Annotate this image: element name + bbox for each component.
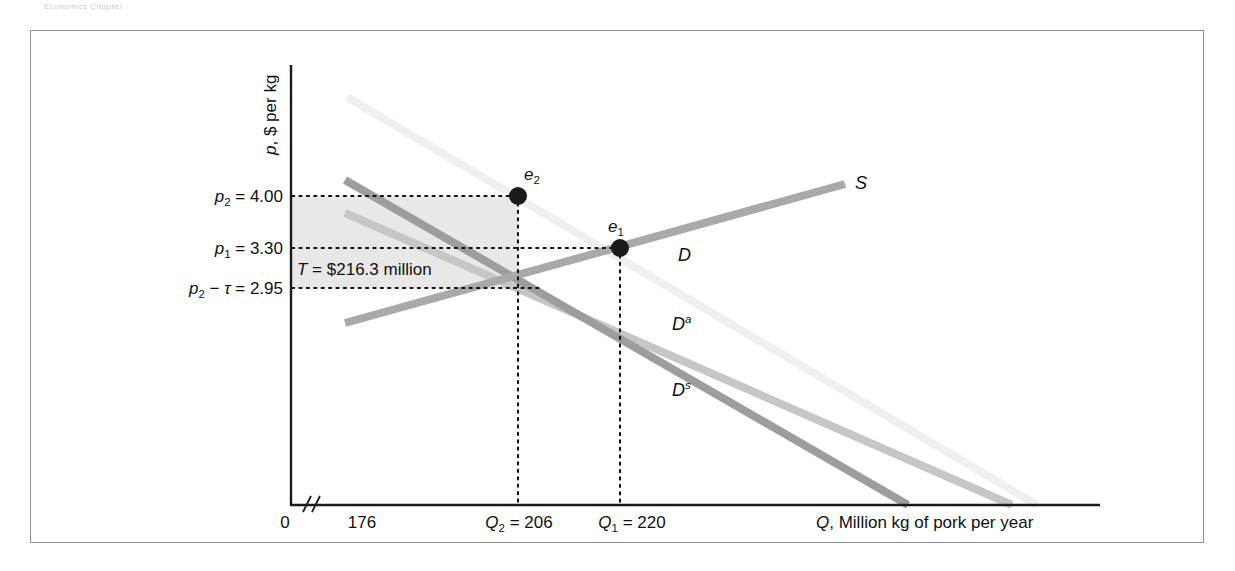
- x-tick-label-q2: Q2 = 206: [485, 513, 552, 534]
- tax-revenue-label: T = $216.3 million: [297, 260, 432, 279]
- curve-label-demand-a: Da: [672, 313, 691, 334]
- y-tick-label-p1: p1 = 3.30: [214, 239, 283, 260]
- curve-label-supply: S: [855, 173, 867, 193]
- point-e2: [509, 187, 527, 205]
- x-axis-title: Q, Million kg of pork per year: [816, 513, 1034, 532]
- y-tick-label-p2: p2 = 4.00: [214, 187, 283, 208]
- label-e1: e1: [608, 217, 624, 238]
- curve-demand-total: [347, 97, 1037, 505]
- label-e2: e2: [524, 165, 540, 186]
- curve-label-demand-total: D: [678, 245, 691, 265]
- point-e1: [611, 239, 629, 257]
- figure-root: Economics Chapter p, $ per kg: [0, 0, 1235, 571]
- x-tick-label-q1: Q1 = 220: [598, 513, 665, 534]
- curve-demand-s: [345, 180, 908, 505]
- curve-label-demand-s: Ds: [672, 379, 691, 400]
- x-tick-label-0: 0: [280, 513, 289, 532]
- y-tick-label-p2-minus-tau: p2 − τ = 2.95: [188, 279, 283, 300]
- y-axis-title: p, $ per kg: [261, 75, 280, 156]
- chart-canvas: p, $ per kg p2 = 4.00 p1 = 3.30 p2 − τ =…: [0, 0, 1235, 571]
- x-tick-label-176: 176: [348, 513, 376, 532]
